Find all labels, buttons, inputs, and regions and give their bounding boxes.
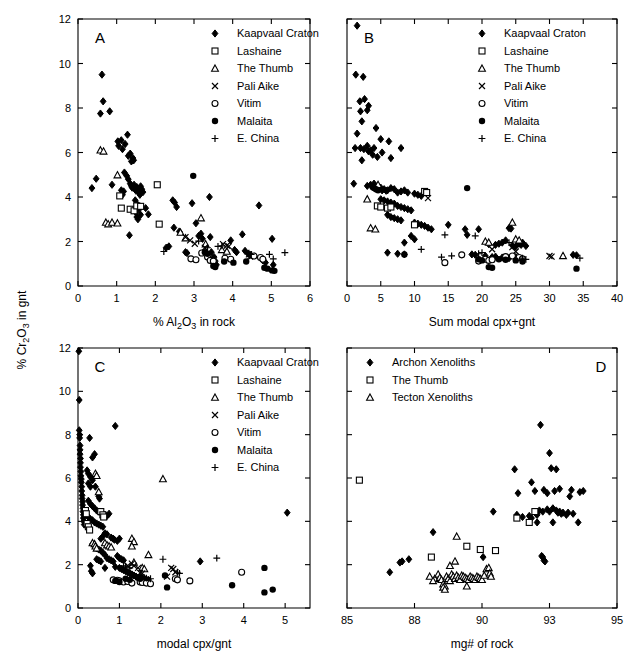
marker-open-triangle (212, 65, 219, 71)
legend-item[interactable]: E. China (479, 132, 547, 144)
marker-filled-circle (271, 268, 277, 274)
marker-filled-circle (464, 185, 470, 191)
marker-filled-diamond (109, 181, 115, 188)
marker-filled-diamond (479, 30, 485, 37)
marker-filled-diamond (112, 422, 118, 429)
marker-filled-circle (261, 589, 267, 595)
legend-label: Kaapvaal Craton (237, 356, 319, 368)
marker-filled-circle (401, 251, 407, 257)
y-tick-label: 2 (65, 236, 71, 248)
marker-filled-diamond (379, 149, 385, 156)
marker-open-square (356, 477, 362, 483)
marker-open-triangle (145, 551, 152, 557)
legend-item[interactable]: Kaapvaal Craton (212, 356, 319, 368)
marker-filled-circle (162, 572, 168, 578)
marker-open-square (367, 377, 373, 383)
marker-filled-diamond (385, 249, 391, 256)
legend-label: Malaita (237, 115, 273, 127)
legend-item[interactable]: Kaapvaal Craton (479, 27, 586, 39)
marker-cross-x (170, 566, 176, 572)
legend-item[interactable]: E. China (212, 461, 280, 473)
x-tick-label: 0 (75, 292, 81, 304)
legend-panel-b: Kaapvaal CratonLashaineThe ThumbPali Aik… (479, 27, 586, 144)
marker-filled-diamond (354, 22, 360, 29)
marker-filled-diamond (550, 519, 556, 526)
marker-open-triangle (479, 65, 486, 71)
marker-filled-diamond (197, 558, 203, 565)
marker-filled-circle (229, 582, 235, 588)
marker-filled-diamond (476, 226, 482, 233)
marker-open-circle (442, 260, 448, 266)
marker-filled-circle (230, 259, 236, 265)
marker-filled-diamond (547, 449, 553, 456)
legend-item[interactable]: Lashaine (212, 374, 282, 386)
legend-item[interactable]: Malaita (212, 444, 274, 456)
marker-open-circle (489, 257, 495, 263)
legend-item[interactable]: Pali Aike (212, 80, 279, 92)
x-tick-label: 5 (282, 614, 288, 626)
marker-plus (270, 255, 277, 262)
legend-item[interactable]: Pali Aike (479, 80, 546, 92)
legend-item[interactable]: Vitim (479, 97, 528, 109)
legend-item[interactable]: Tecton Xenoliths (367, 391, 474, 403)
series-the-thumb (89, 470, 166, 572)
marker-filled-diamond (548, 465, 554, 472)
legend-item[interactable]: Malaita (479, 115, 541, 127)
marker-plus (160, 556, 167, 563)
x-tick-label: 15 (442, 292, 454, 304)
marker-open-triangle (364, 196, 371, 202)
panel-b: 0510152025303540BSum modal cpx+gntKaapva… (344, 19, 623, 329)
legend-item[interactable]: The Thumb (212, 62, 293, 74)
legend-item[interactable]: The Thumb (367, 374, 448, 386)
legend-label: Lashaine (504, 45, 549, 57)
x-tick-label: 20 (476, 292, 488, 304)
marker-filled-diamond (87, 434, 93, 441)
marker-open-square (424, 190, 430, 196)
marker-filled-diamond (351, 180, 357, 187)
marker-open-square (117, 193, 123, 199)
marker-filled-diamond (529, 479, 535, 486)
legend-item[interactable]: Kaapvaal Craton (212, 27, 319, 39)
marker-plus (212, 464, 219, 471)
y-tick-label: 4 (65, 515, 71, 527)
marker-filled-diamond (360, 73, 366, 80)
legend-label: Pali Aike (237, 80, 279, 92)
marker-filled-diamond (269, 235, 275, 242)
legend-label: E. China (237, 132, 280, 144)
plot-frame (347, 348, 617, 608)
legend-label: Vitim (237, 97, 261, 109)
legend-item[interactable]: E. China (212, 132, 280, 144)
marker-filled-diamond (553, 466, 559, 473)
marker-open-triangle (212, 394, 219, 400)
y-tick-label: 10 (59, 58, 71, 70)
x-tick-label: 30 (543, 292, 555, 304)
marker-filled-diamond (99, 71, 105, 78)
legend-item[interactable]: Vitim (212, 426, 261, 438)
marker-filled-circle (479, 118, 485, 124)
marker-open-triangle (509, 219, 516, 225)
marker-plus (448, 253, 455, 260)
marker-open-square (154, 182, 160, 188)
marker-filled-diamond (386, 138, 392, 145)
y-tick-label: 12 (59, 13, 71, 25)
marker-plus (281, 249, 288, 256)
series-pali-aike (425, 195, 555, 260)
marker-open-square (388, 204, 394, 210)
legend-item[interactable]: Pali Aike (212, 409, 279, 421)
x-tick-label: 5 (378, 292, 384, 304)
legend-item[interactable]: Lashaine (479, 45, 549, 57)
legend-item[interactable]: Archon Xenoliths (367, 356, 476, 368)
legend-item[interactable]: The Thumb (212, 391, 293, 403)
legend-item[interactable]: Vitim (212, 97, 261, 109)
marker-filled-circle (212, 118, 218, 124)
legend-item[interactable]: Malaita (212, 115, 274, 127)
marker-open-square (101, 514, 107, 520)
legend-item[interactable]: The Thumb (479, 62, 560, 74)
legend-label: Malaita (504, 115, 540, 127)
legend-item[interactable]: Lashaine (212, 45, 282, 57)
marker-filled-diamond (102, 564, 108, 571)
x-tick-label: 90 (476, 614, 488, 626)
legend-label: E. China (237, 461, 280, 473)
x-tick-label: 85 (341, 614, 353, 626)
legend-panel-c: Kaapvaal CratonLashaineThe ThumbPali Aik… (212, 356, 319, 473)
